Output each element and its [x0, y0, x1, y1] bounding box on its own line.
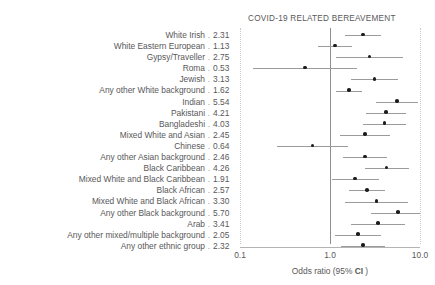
forest-plot-figure: COVID-19 RELATED BEREAVEMENT White Irish…: [0, 0, 435, 285]
separator-dot: .: [205, 163, 213, 174]
separator-dot: .: [205, 152, 213, 163]
point-estimate-marker: [373, 77, 377, 81]
point-estimate-marker: [347, 88, 351, 92]
forest-row: [240, 219, 420, 230]
x-axis-title: Odds ratio (95% CI ): [240, 266, 420, 276]
forest-row: [240, 208, 420, 219]
category-label: Chinese: [0, 141, 205, 152]
x-axis-tick-labels: 0.11.010.0: [240, 250, 420, 262]
odds-ratio-value-column: 2.311.132.750.533.131.625.544.214.032.45…: [213, 30, 237, 252]
separator-dot: .: [205, 41, 213, 52]
odds-ratio-value: 1.62: [213, 85, 237, 96]
category-label: Roma: [0, 63, 205, 74]
x-axis-title-main: Odds ratio (95%: [292, 266, 355, 276]
forest-row: [240, 119, 420, 130]
odds-ratio-value: 4.03: [213, 119, 237, 130]
separator-dot: .: [205, 219, 213, 230]
forest-row: [240, 130, 420, 141]
forest-row: [240, 163, 420, 174]
gridline: [420, 28, 421, 244]
separator-dot: .: [205, 52, 213, 63]
category-label: Any other mixed/multiple background: [0, 230, 205, 241]
odds-ratio-value: 3.30: [213, 196, 237, 207]
point-estimate-marker: [361, 33, 365, 37]
odds-ratio-value: 5.54: [213, 97, 237, 108]
chart-title: COVID-19 RELATED BEREAVEMENT: [248, 14, 396, 23]
forest-row: [240, 174, 420, 185]
forest-row: [240, 74, 420, 85]
separator-dot: .: [205, 230, 213, 241]
separator-dot: .: [205, 241, 213, 252]
category-label: Any other Asian background: [0, 152, 205, 163]
odds-ratio-value: 3.13: [213, 74, 237, 85]
separator-dot: .: [205, 196, 213, 207]
separator-dot: .: [205, 108, 213, 119]
category-label: Mixed White and Black African: [0, 196, 205, 207]
separator-dot: .: [205, 185, 213, 196]
category-label: Gypsy/Traveller: [0, 52, 205, 63]
forest-row: [240, 97, 420, 108]
separator-dot: .: [205, 97, 213, 108]
separator-dot: .: [205, 141, 213, 152]
category-label: Arab: [0, 219, 205, 230]
odds-ratio-value: 5.70: [213, 208, 237, 219]
odds-ratio-value: 3.41: [213, 219, 237, 230]
category-label: Mixed White and Black Caribbean: [0, 174, 205, 185]
category-label: Any other ethnic group: [0, 241, 205, 252]
point-estimate-marker: [363, 132, 367, 136]
forest-row: [240, 41, 420, 52]
point-estimate-marker: [376, 221, 380, 225]
odds-ratio-value: 2.46: [213, 152, 237, 163]
category-label: Indian: [0, 97, 205, 108]
separator-dot: .: [205, 130, 213, 141]
forest-row: [240, 152, 420, 163]
category-label: White Eastern European: [0, 41, 205, 52]
point-estimate-marker: [384, 110, 388, 114]
separator-dot: .: [205, 63, 213, 74]
odds-ratio-value: 2.05: [213, 230, 237, 241]
forest-row: [240, 185, 420, 196]
forest-row: [240, 197, 420, 208]
x-axis-title-bold: CI: [355, 266, 363, 276]
category-label: Jewish: [0, 74, 205, 85]
odds-ratio-value: 4.26: [213, 163, 237, 174]
x-tick-label: 0.1: [234, 250, 246, 260]
forest-row: [240, 52, 420, 63]
category-label: Mixed White and Asian: [0, 130, 205, 141]
x-axis-line: [240, 247, 420, 248]
forest-row: [240, 141, 420, 152]
odds-ratio-value: 1.91: [213, 174, 237, 185]
odds-ratio-value: 2.31: [213, 30, 237, 41]
category-label: Black Caribbean: [0, 163, 205, 174]
x-tick-label: 1.0: [324, 250, 336, 260]
separator-dot: .: [205, 208, 213, 219]
separator-dot: .: [205, 74, 213, 85]
point-estimate-marker: [333, 44, 337, 48]
category-label: Any other Black background: [0, 208, 205, 219]
category-label: Any other White background: [0, 85, 205, 96]
category-label: Pakistani: [0, 108, 205, 119]
plot-area: [240, 28, 420, 244]
point-estimate-marker: [356, 232, 360, 236]
odds-ratio-value: 2.75: [213, 52, 237, 63]
category-label-column: White IrishWhite Eastern EuropeanGypsy/T…: [0, 30, 205, 252]
x-axis-title-tail: ): [363, 266, 368, 276]
separator-dot: .: [205, 119, 213, 130]
point-estimate-marker: [395, 99, 399, 103]
odds-ratio-value: 2.57: [213, 185, 237, 196]
forest-row: [240, 63, 420, 74]
separator-dot: .: [205, 30, 213, 41]
category-label: Bangladeshi: [0, 119, 205, 130]
point-estimate-marker: [396, 210, 400, 214]
separator-dot: .: [205, 85, 213, 96]
category-label: White Irish: [0, 30, 205, 41]
odds-ratio-value: 2.45: [213, 130, 237, 141]
separator-dot-column: ....................: [205, 30, 213, 252]
forest-row: [240, 230, 420, 241]
odds-ratio-value: 1.13: [213, 41, 237, 52]
forest-row: [240, 86, 420, 97]
category-label: Black African: [0, 185, 205, 196]
forest-row: [240, 108, 420, 119]
forest-row: [240, 30, 420, 41]
x-tick-label: 10.0: [412, 250, 428, 260]
